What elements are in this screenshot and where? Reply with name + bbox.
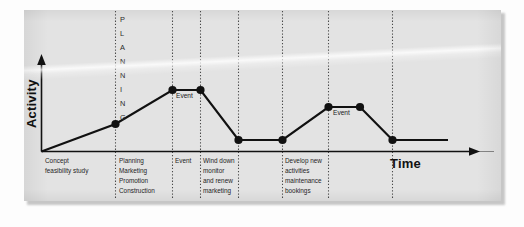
phase-cell-line: activities bbox=[285, 167, 310, 174]
planning-letter: G bbox=[120, 113, 126, 122]
activity-time-line-chart: Activity Time Event Event P L A N N I N … bbox=[24, 10, 501, 201]
phase-dividers bbox=[116, 11, 393, 199]
vertex-marker bbox=[388, 136, 396, 144]
phase-cell-planning: Planning Marketing Promotion Constructio… bbox=[119, 157, 155, 194]
phase-cell-line: Wind down bbox=[203, 157, 235, 164]
x-axis-title: Time bbox=[390, 156, 421, 171]
vertex-marker bbox=[196, 86, 204, 94]
phase-cell-line: and renew bbox=[203, 177, 233, 184]
planning-letter: P bbox=[120, 15, 125, 24]
curve-vertex-markers bbox=[111, 86, 396, 144]
vertex-marker bbox=[111, 120, 119, 128]
y-axis-arrowhead bbox=[37, 54, 46, 65]
phase-cell-concept: Concept feasibility study bbox=[45, 157, 89, 175]
phase-cell-line: Concept bbox=[45, 157, 69, 165]
y-axis-title: Activity bbox=[24, 79, 39, 128]
planning-letter: I bbox=[120, 85, 122, 94]
phase-cell-event: Event bbox=[175, 157, 192, 164]
phase-cell-line: maintenance bbox=[285, 177, 322, 184]
planning-letter: A bbox=[120, 43, 125, 52]
phase-cell-line: Planning bbox=[119, 157, 144, 165]
phase-cell-line: bookings bbox=[285, 187, 311, 195]
planning-letter: N bbox=[120, 57, 126, 66]
vertex-marker bbox=[278, 136, 286, 144]
phase-cell-develop: Develop new activities maintenance booki… bbox=[285, 157, 322, 195]
activity-curve bbox=[42, 90, 449, 152]
phase-cell-line: Marketing bbox=[119, 167, 148, 175]
phase-cell-line: Construction bbox=[119, 187, 155, 194]
figure-page: Activity Time Event Event P L A N N I N … bbox=[0, 0, 524, 227]
x-axis-arrowhead bbox=[469, 147, 480, 156]
phase-cell-line: marketing bbox=[203, 187, 232, 195]
vertex-marker bbox=[234, 136, 242, 144]
planning-letter: N bbox=[120, 71, 126, 80]
event-label-2: Event bbox=[333, 109, 350, 116]
phase-label-band: Concept feasibility study Planning Marke… bbox=[45, 157, 322, 195]
event-label-1: Event bbox=[176, 92, 193, 99]
planning-letter: L bbox=[120, 29, 124, 38]
vertex-marker bbox=[356, 103, 364, 111]
phase-cell-winddown: Wind down monitor and renew marketing bbox=[203, 157, 235, 195]
phase-cell-line: Promotion bbox=[119, 177, 149, 184]
phase-cell-line: feasibility study bbox=[45, 167, 89, 175]
planning-vertical-banner: P L A N N I N G bbox=[120, 15, 126, 122]
phase-cell-line: Develop new bbox=[285, 157, 322, 165]
chart-panel: Activity Time Event Event P L A N N I N … bbox=[24, 10, 501, 201]
planning-letter: N bbox=[120, 99, 126, 108]
phase-cell-line: monitor bbox=[203, 167, 225, 174]
phase-cell-line: Event bbox=[175, 157, 192, 164]
vertex-marker bbox=[324, 103, 332, 111]
